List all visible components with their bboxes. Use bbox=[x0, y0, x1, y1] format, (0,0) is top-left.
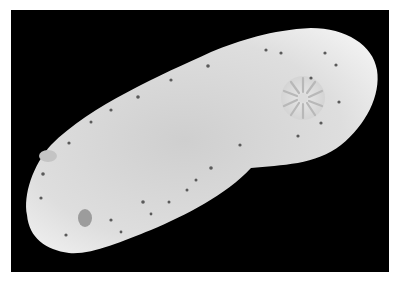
photo-frame bbox=[11, 10, 389, 272]
nudibranch-photo bbox=[11, 10, 389, 272]
mantle-lump bbox=[78, 209, 92, 227]
gill-rosette bbox=[281, 76, 325, 120]
mantle-lump bbox=[39, 150, 57, 162]
